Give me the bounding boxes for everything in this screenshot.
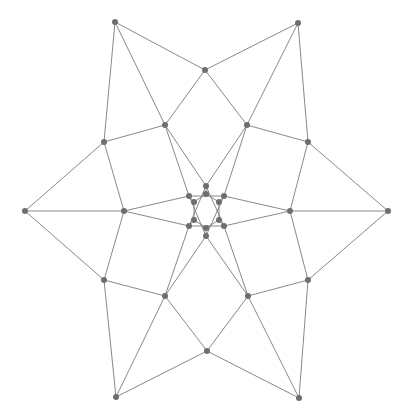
graph-edge [104, 211, 124, 280]
graph-edge [290, 211, 308, 280]
graph-edge [116, 296, 165, 397]
graph-edge [290, 142, 308, 211]
graph-edge [25, 211, 104, 280]
graph-node [245, 293, 251, 299]
graph-edge [298, 23, 308, 142]
graph-node [101, 277, 107, 283]
graph-edge [104, 125, 165, 142]
graph-edge [205, 23, 298, 70]
edge-layer [25, 22, 388, 398]
graph-edge [165, 226, 189, 296]
graph-node [162, 293, 168, 299]
graph-node [191, 199, 197, 205]
graph-node [216, 199, 222, 205]
graph-edge [224, 196, 290, 211]
graph-node [113, 394, 119, 400]
graph-node [203, 191, 209, 197]
graph-edge [104, 280, 116, 397]
graph-edge [25, 142, 104, 211]
graph-edge [247, 125, 308, 142]
graph-node [287, 208, 293, 214]
graph-node [216, 217, 222, 223]
graph-edge [165, 236, 206, 296]
graph-edge [224, 226, 248, 296]
graph-edge [165, 125, 206, 186]
graph-node [295, 20, 301, 26]
graph-node [101, 139, 107, 145]
graph-canvas [0, 0, 413, 418]
graph-edge [206, 236, 248, 296]
graph-node [385, 208, 391, 214]
graph-edge [104, 142, 124, 211]
graph-edge [207, 296, 248, 351]
graph-edge [165, 70, 205, 125]
graph-figure [0, 0, 413, 418]
graph-edge [224, 125, 247, 196]
graph-edge [224, 211, 290, 226]
graph-edge [299, 280, 308, 398]
graph-node [221, 223, 227, 229]
graph-edge [205, 70, 247, 125]
graph-edge [116, 351, 207, 397]
graph-node [221, 193, 227, 199]
graph-node [22, 208, 28, 214]
graph-node [203, 233, 209, 239]
graph-node [121, 208, 127, 214]
graph-edge [115, 22, 165, 125]
graph-edge [308, 211, 388, 280]
graph-edge [308, 142, 388, 211]
graph-node [203, 225, 209, 231]
graph-edge [207, 351, 299, 398]
graph-edge [104, 280, 165, 296]
graph-node [191, 217, 197, 223]
graph-edge [124, 211, 189, 226]
graph-node [162, 122, 168, 128]
graph-edge [124, 196, 189, 211]
graph-edge [248, 296, 299, 398]
graph-node [296, 395, 302, 401]
graph-node [186, 223, 192, 229]
graph-node [186, 193, 192, 199]
graph-edge [165, 296, 207, 351]
node-layer [22, 19, 391, 401]
graph-edge [247, 23, 298, 125]
graph-node [204, 348, 210, 354]
graph-node [305, 277, 311, 283]
graph-node [203, 183, 209, 189]
graph-node [305, 139, 311, 145]
graph-node [112, 19, 118, 25]
graph-edge [248, 280, 308, 296]
graph-node [202, 67, 208, 73]
graph-node [244, 122, 250, 128]
graph-edge [165, 125, 189, 196]
graph-edge [206, 125, 247, 186]
graph-edge [104, 22, 115, 142]
graph-edge [115, 22, 205, 70]
